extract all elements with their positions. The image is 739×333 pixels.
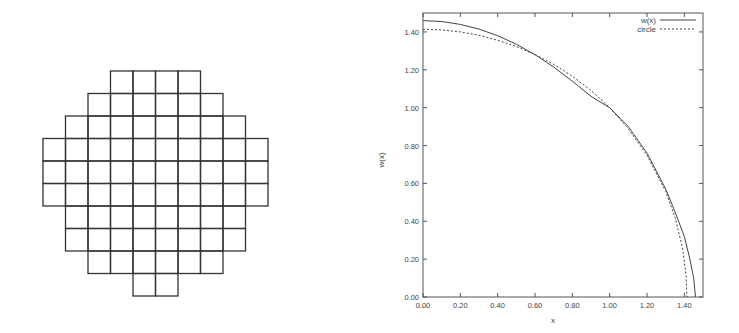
grid-cell bbox=[43, 139, 66, 162]
grid-cell bbox=[88, 206, 111, 229]
grid-cell bbox=[133, 206, 156, 229]
grid-cell bbox=[133, 71, 156, 94]
y-tick-label: 0.00 bbox=[404, 293, 419, 302]
grid-cell bbox=[133, 229, 156, 252]
x-tick-label: 0.80 bbox=[565, 301, 580, 310]
chart-series bbox=[423, 21, 696, 297]
grid-cell bbox=[156, 274, 179, 297]
grid-cell bbox=[66, 161, 89, 184]
line-chart: 0.000.200.400.600.801.001.201.400.000.20… bbox=[370, 0, 739, 333]
grid-cell bbox=[178, 251, 201, 274]
y-axis-label: w(x) bbox=[377, 152, 386, 168]
x-tick-label: 0.60 bbox=[528, 301, 543, 310]
grid-cell bbox=[43, 161, 66, 184]
grid-cell bbox=[88, 139, 111, 162]
grid-cell bbox=[178, 94, 201, 117]
grid-cell bbox=[246, 139, 269, 162]
square-grid-figure bbox=[0, 0, 300, 333]
grid-cell bbox=[201, 94, 224, 117]
grid-cell bbox=[178, 116, 201, 139]
x-tick-label: 0.00 bbox=[416, 301, 431, 310]
grid-cell bbox=[88, 229, 111, 252]
y-tick-label: 1.40 bbox=[404, 28, 419, 37]
y-tick-label: 0.60 bbox=[404, 179, 419, 188]
square-grid-svg bbox=[0, 0, 300, 333]
x-tick-label: 1.40 bbox=[677, 301, 692, 310]
grid-cell bbox=[156, 71, 179, 94]
grid-cell bbox=[178, 206, 201, 229]
grid-cell bbox=[223, 161, 246, 184]
grid-cell bbox=[201, 139, 224, 162]
grid-cell bbox=[133, 139, 156, 162]
grid-cell bbox=[201, 184, 224, 207]
grid-cell bbox=[201, 206, 224, 229]
grid-cell bbox=[156, 184, 179, 207]
grid-cell bbox=[66, 229, 89, 252]
grid-cell bbox=[88, 161, 111, 184]
x-tick-label: 0.20 bbox=[453, 301, 468, 310]
series-line-circle bbox=[423, 29, 687, 297]
grid-cell bbox=[156, 206, 179, 229]
grid-cell bbox=[88, 251, 111, 274]
legend-label-wx: w(x) bbox=[640, 16, 656, 25]
grid-cell bbox=[178, 71, 201, 94]
series-line-wx bbox=[423, 21, 696, 297]
y-tick-label: 1.20 bbox=[404, 66, 419, 75]
grid-cell bbox=[201, 229, 224, 252]
grid-cell bbox=[133, 274, 156, 297]
grid-cell bbox=[223, 139, 246, 162]
grid-cell bbox=[178, 161, 201, 184]
axis-ticks: 0.000.200.400.600.801.001.201.400.000.20… bbox=[404, 13, 703, 310]
grid-cell bbox=[88, 184, 111, 207]
grid-cell bbox=[156, 161, 179, 184]
grid-cell bbox=[111, 94, 134, 117]
grid-cell bbox=[111, 229, 134, 252]
grid-cell bbox=[246, 184, 269, 207]
grid-cell bbox=[111, 184, 134, 207]
grid-cell bbox=[66, 116, 89, 139]
grid-cell bbox=[66, 184, 89, 207]
grid-cell bbox=[201, 251, 224, 274]
grid-cell bbox=[223, 229, 246, 252]
grid-cell bbox=[111, 161, 134, 184]
x-tick-label: 0.40 bbox=[490, 301, 505, 310]
grid-cell bbox=[88, 116, 111, 139]
grid-cell bbox=[66, 139, 89, 162]
y-tick-label: 0.40 bbox=[404, 217, 419, 226]
grid-cell bbox=[111, 206, 134, 229]
grid-cell bbox=[178, 229, 201, 252]
legend: w(x) circle bbox=[637, 16, 696, 34]
grid-cell bbox=[156, 94, 179, 117]
grid-cell bbox=[133, 94, 156, 117]
grid-cell bbox=[223, 116, 246, 139]
grid-cell bbox=[111, 116, 134, 139]
grid-cell bbox=[88, 94, 111, 117]
y-tick-label: 0.20 bbox=[404, 255, 419, 264]
y-tick-label: 0.80 bbox=[404, 142, 419, 151]
grid-cell bbox=[201, 161, 224, 184]
plot-frame bbox=[423, 13, 703, 297]
grid-cell bbox=[111, 71, 134, 94]
grid-cell bbox=[178, 139, 201, 162]
grid-cell bbox=[133, 161, 156, 184]
line-chart-svg: 0.000.200.400.600.801.001.201.400.000.20… bbox=[370, 0, 739, 333]
grid-cell bbox=[133, 184, 156, 207]
grid-cell bbox=[156, 229, 179, 252]
grid-cell bbox=[156, 139, 179, 162]
grid-cell bbox=[178, 184, 201, 207]
x-tick-label: 1.20 bbox=[640, 301, 655, 310]
grid-cell bbox=[133, 116, 156, 139]
grid-cell bbox=[223, 206, 246, 229]
y-tick-label: 1.00 bbox=[404, 104, 419, 113]
grid-cell bbox=[156, 116, 179, 139]
grid-cell bbox=[43, 184, 66, 207]
x-tick-label: 1.00 bbox=[602, 301, 617, 310]
grid-cell bbox=[156, 251, 179, 274]
grid-cell bbox=[111, 139, 134, 162]
x-axis-label: x bbox=[551, 316, 555, 325]
grid-cell bbox=[223, 184, 246, 207]
grid-cell bbox=[111, 251, 134, 274]
grid-cell bbox=[66, 206, 89, 229]
grid-cell bbox=[201, 116, 224, 139]
grid-cell bbox=[133, 251, 156, 274]
